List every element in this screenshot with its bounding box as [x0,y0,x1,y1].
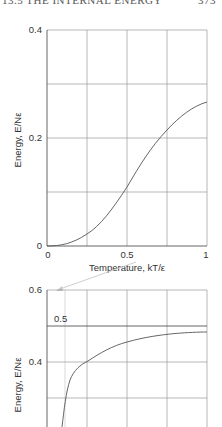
asymptote-label: 0.5 [54,313,67,324]
top-xtick-0: 0 [45,249,50,260]
top-chart: 0.4 0.2 0 0 0.5 1 Temperature, kT/ε Ener… [12,24,209,273]
top-ytick-0.2: 0.2 [29,132,42,143]
bottom-ytick-0.4: 0.4 [29,356,42,367]
top-grid [47,30,207,246]
top-ylabel: Energy, E/Nε [12,112,23,168]
top-ytick-0.4: 0.4 [29,24,42,35]
figure: 0.4 0.2 0 0 0.5 1 Temperature, kT/ε Ener… [0,0,222,427]
bottom-chart: 0.6 0.4 0.5 Energy, E/Nε [12,284,207,427]
top-xtick-1: 1 [203,249,208,260]
bottom-energy-curve [62,332,207,427]
bottom-ytick-0.6: 0.6 [29,284,42,295]
top-ytick-0: 0 [37,240,42,251]
bottom-grid [47,290,207,427]
bottom-ylabel: Energy, E/Nε [12,357,23,413]
top-xlabel: Temperature, kT/ε [89,262,166,273]
top-xtick-0.5: 0.5 [120,249,133,260]
